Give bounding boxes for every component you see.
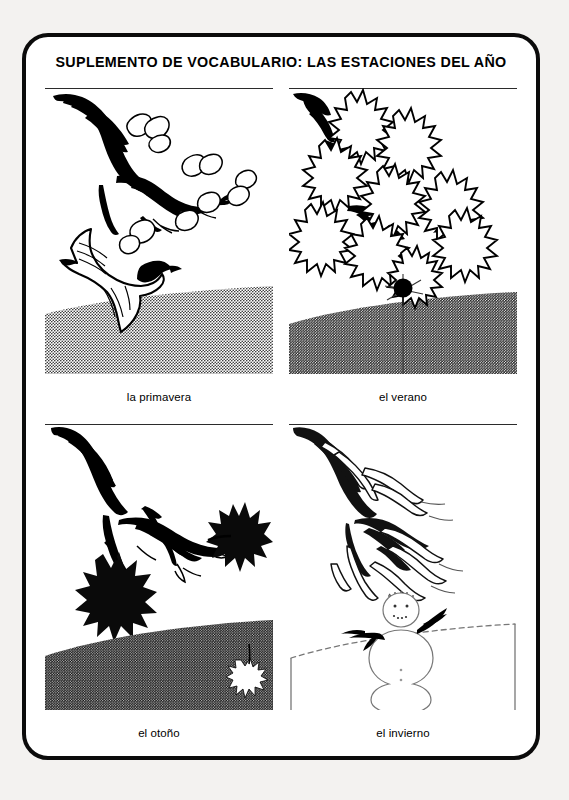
otono-illustration	[45, 424, 273, 710]
worksheet-page: SUPLEMENTO DE VOCABULARIO: LAS ESTACIONE…	[0, 0, 569, 800]
season-panel-verano: el verano	[289, 88, 517, 403]
rounded-page-frame: SUPLEMENTO DE VOCABULARIO: LAS ESTACIONE…	[22, 33, 540, 760]
season-panel-invierno: el invierno	[289, 424, 517, 739]
caption-verano: el verano	[289, 391, 517, 403]
caption-invierno: el invierno	[289, 727, 517, 739]
page-title: SUPLEMENTO DE VOCABULARIO: LAS ESTACIONE…	[26, 54, 536, 70]
season-panel-primavera: la primavera	[45, 88, 273, 403]
caption-otono: el otoño	[45, 727, 273, 739]
invierno-illustration	[289, 424, 517, 710]
verano-illustration	[289, 88, 517, 374]
primavera-illustration	[45, 88, 273, 374]
seasons-grid: la primavera	[45, 88, 517, 739]
caption-primavera: la primavera	[45, 391, 273, 403]
season-panel-otono: el otoño	[45, 424, 273, 739]
